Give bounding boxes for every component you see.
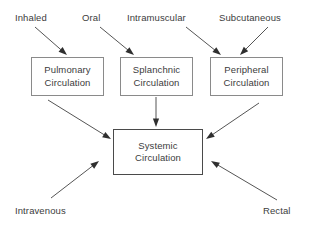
arrow-oral-to-splanchnic	[100, 27, 134, 55]
arrow-peripheral-to-systemic	[206, 103, 259, 139]
route-label-intravenous-text: Intravenous	[15, 205, 66, 216]
route-label-subcutaneous-text: Subcutaneous	[219, 12, 281, 23]
node-peripheral-circulation: Peripheral Circulation	[210, 57, 283, 96]
route-label-inhaled: Inhaled	[15, 12, 47, 23]
route-label-oral-text: Oral	[82, 12, 100, 23]
node-splanchnic-line1: Splanchnic	[133, 64, 180, 77]
arrowhead-intramuscular-to-peripheral	[212, 47, 221, 55]
route-label-intramuscular: Intramuscular	[127, 12, 186, 23]
node-systemic-circulation: Systemic Circulation	[113, 129, 203, 175]
route-label-oral: Oral	[82, 12, 100, 23]
arrowhead-rectal-to-systemic	[211, 161, 220, 168]
node-systemic-line1: Systemic	[138, 140, 177, 153]
arrowhead-oral-to-splanchnic	[125, 47, 134, 55]
route-label-rectal: Rectal	[263, 205, 291, 216]
node-pulmonary-circulation: Pulmonary Circulation	[31, 57, 104, 96]
arrow-intravenous-to-systemic	[51, 161, 99, 198]
node-splanchnic-line2: Circulation	[134, 77, 180, 90]
route-label-inhaled-text: Inhaled	[15, 12, 47, 23]
diagram-canvas: Inhaled Oral Intramuscular Subcutaneous …	[0, 0, 312, 227]
arrow-layer	[0, 0, 312, 227]
node-splanchnic-circulation: Splanchnic Circulation	[120, 57, 193, 96]
arrowhead-pulmonary-to-systemic	[102, 132, 111, 139]
arrow-rectal-to-systemic	[211, 161, 277, 200]
arrow-subcutaneous-to-peripheral	[240, 27, 268, 55]
arrow-pulmonary-to-systemic	[48, 100, 111, 139]
node-peripheral-line2: Circulation	[224, 77, 270, 90]
route-label-rectal-text: Rectal	[263, 205, 291, 216]
node-systemic-line2: Circulation	[135, 152, 181, 165]
node-pulmonary-line1: Pulmonary	[44, 64, 90, 77]
arrowhead-intravenous-to-systemic	[90, 161, 99, 169]
node-peripheral-line1: Peripheral	[224, 64, 268, 77]
arrowhead-peripheral-to-systemic	[206, 132, 215, 139]
arrowhead-splanchnic-to-systemic	[153, 119, 159, 128]
arrow-intramuscular-to-peripheral	[186, 27, 221, 55]
arrow-splanchnic-to-systemic	[153, 97, 159, 127]
route-label-subcutaneous: Subcutaneous	[219, 12, 281, 23]
route-label-intravenous: Intravenous	[15, 205, 66, 216]
node-pulmonary-line2: Circulation	[45, 77, 91, 90]
arrow-inhaled-to-pulmonary	[35, 27, 67, 55]
route-label-intramuscular-text: Intramuscular	[127, 12, 186, 23]
